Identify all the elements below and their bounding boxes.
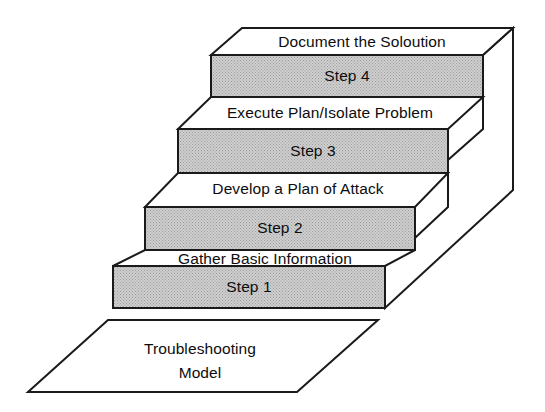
step-2-riser-label: Step 2 xyxy=(257,219,302,236)
step-1-tread-label: Gather Basic Information xyxy=(178,250,352,267)
step-1-riser-label: Step 1 xyxy=(226,278,271,295)
base-title-line-1: Troubleshooting xyxy=(144,340,256,357)
step-3-tread-label: Execute Plan/Isolate Problem xyxy=(227,104,433,121)
step-3-riser-label: Step 3 xyxy=(290,142,335,159)
step-2-tread-label: Develop a Plan of Attack xyxy=(212,180,383,197)
troubleshooting-model-diagram: Document the Soloution Step 4 Execute Pl… xyxy=(0,0,545,412)
staircase-svg: Document the Soloution Step 4 Execute Pl… xyxy=(0,0,545,412)
step-4-tread-label: Document the Soloution xyxy=(278,33,446,50)
step-4-riser-label: Step 4 xyxy=(324,67,370,84)
base-title-line-2: Model xyxy=(179,364,222,381)
